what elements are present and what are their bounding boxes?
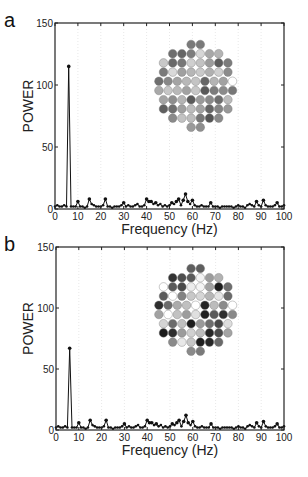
data-point (71, 426, 74, 429)
electrode-circle (155, 310, 164, 319)
data-point (134, 204, 137, 207)
electrode-circle (168, 114, 177, 123)
data-point (103, 425, 106, 428)
electrode-circle (159, 329, 168, 338)
electrode-circle (187, 105, 196, 114)
electrode-circle (196, 105, 205, 114)
data-point (205, 426, 208, 429)
data-point (143, 204, 146, 207)
electrode-circle (205, 283, 214, 292)
electrode-circle (196, 319, 205, 328)
electrode-circle (210, 310, 219, 319)
data-point (209, 422, 213, 426)
data-point (116, 426, 119, 429)
data-point (129, 205, 132, 208)
data-point (212, 205, 215, 208)
electrode-circle (187, 49, 196, 58)
data-point (189, 203, 192, 206)
data-point (88, 197, 92, 201)
electrode-circle (214, 273, 223, 282)
data-point (97, 205, 100, 208)
data-point (264, 204, 267, 207)
electrode-circle (182, 86, 191, 95)
data-point (136, 203, 139, 206)
data-point (132, 205, 135, 208)
data-point (157, 204, 160, 207)
data-point (251, 425, 254, 428)
electrode-circle (214, 105, 223, 114)
data-point (217, 426, 220, 429)
data-point (258, 425, 261, 428)
electrode-circle (168, 95, 177, 104)
data-point (104, 197, 108, 201)
data-point (122, 201, 126, 205)
electrode-circle (214, 49, 223, 58)
data-point (61, 205, 64, 208)
data-point (113, 205, 116, 208)
data-point (230, 426, 233, 429)
data-point (278, 205, 281, 208)
electrode-circle (178, 95, 187, 104)
electrode-circle (196, 49, 205, 58)
y-axis-label: POWER (20, 80, 36, 133)
electrode-circle (214, 95, 223, 104)
electrode-circle (168, 49, 177, 58)
data-point (107, 426, 110, 429)
data-point (216, 205, 219, 208)
data-point (177, 418, 181, 422)
electrode-circle (178, 49, 187, 58)
data-point (246, 204, 249, 207)
data-point (207, 426, 210, 429)
data-point (63, 204, 66, 207)
data-point (62, 426, 65, 429)
data-point (58, 205, 61, 208)
electrode-circle (187, 273, 196, 282)
data-point (194, 425, 197, 428)
data-point (228, 205, 231, 208)
electrode-circle (219, 77, 228, 86)
y-tick-label: 100 (36, 80, 53, 91)
data-point (198, 205, 201, 208)
data-point (191, 199, 195, 203)
electrode-circle (214, 338, 223, 347)
electrode-circle (178, 283, 187, 292)
electrode-circle (224, 283, 233, 292)
data-point (235, 205, 238, 208)
data-point (104, 418, 108, 422)
electrode-circle (228, 86, 237, 95)
data-point (225, 205, 228, 208)
electrode-circle (164, 301, 173, 310)
electrode-circle (155, 301, 164, 310)
electrode-circle (168, 105, 177, 114)
data-point (203, 205, 206, 208)
power-map-inset (155, 264, 237, 355)
electrode-circle (196, 114, 205, 123)
electrode-circle (214, 283, 223, 292)
data-point (137, 424, 140, 427)
electrode-circle (168, 319, 177, 328)
electrode-circle (196, 338, 205, 347)
data-point (166, 205, 169, 208)
data-point (223, 205, 226, 208)
data-point (262, 420, 266, 424)
data-point (278, 426, 281, 429)
electrode-circle (228, 77, 237, 86)
electrode-circle (187, 95, 196, 104)
data-point (242, 426, 245, 429)
electrode-circle (187, 347, 196, 356)
electrode-circle (205, 338, 214, 347)
electrode-circle (159, 59, 168, 68)
data-point (267, 426, 270, 429)
electrode-circle (228, 310, 237, 319)
data-point (96, 426, 99, 429)
data-point (221, 426, 224, 429)
data-point (73, 426, 76, 429)
data-point (76, 200, 80, 204)
panel-label: a (4, 9, 16, 31)
data-point (173, 424, 176, 427)
electrode-circle (168, 68, 177, 77)
electrode-circle (187, 68, 196, 77)
data-point (223, 426, 226, 429)
electrode-circle (187, 319, 196, 328)
electrode-circle (210, 86, 219, 95)
